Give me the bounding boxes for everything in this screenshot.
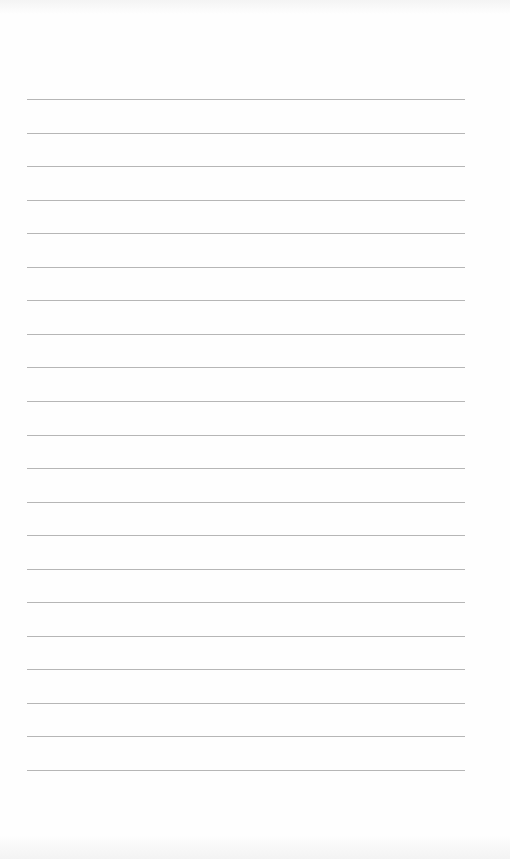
ruled-line	[27, 334, 465, 335]
ruled-line	[27, 166, 465, 167]
ruled-line	[27, 736, 465, 737]
ruled-line	[27, 99, 465, 100]
ruled-line	[27, 435, 465, 436]
ruled-line	[27, 669, 465, 670]
ruled-line	[27, 367, 465, 368]
ruled-line	[27, 502, 465, 503]
ruled-line	[27, 200, 465, 201]
lined-page	[0, 0, 510, 859]
ruled-line	[27, 636, 465, 637]
ruled-line	[27, 569, 465, 570]
page-top-edge	[0, 0, 510, 14]
ruled-line	[27, 233, 465, 234]
ruled-line	[27, 133, 465, 134]
ruled-line	[27, 602, 465, 603]
ruled-line	[27, 703, 465, 704]
ruled-line	[27, 468, 465, 469]
page-bottom-edge	[0, 835, 510, 859]
ruled-line	[27, 300, 465, 301]
ruled-line	[27, 770, 465, 771]
ruled-line	[27, 535, 465, 536]
ruled-line	[27, 267, 465, 268]
ruled-line	[27, 401, 465, 402]
